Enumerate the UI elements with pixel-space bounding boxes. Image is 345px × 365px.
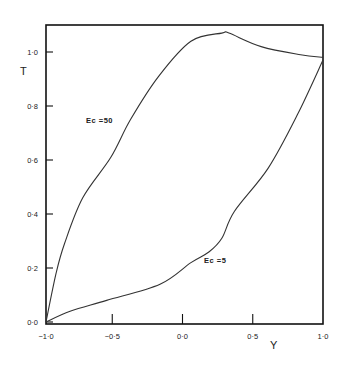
curve-label-ec50: Ec =50 xyxy=(86,116,113,125)
y-tick-label: 0·8 xyxy=(27,102,38,111)
x-tick-label: −1·0 xyxy=(38,332,53,341)
x-axis-ticks: −1·0−0·50·00·51·0 xyxy=(38,314,328,341)
x-tick-label: 0·0 xyxy=(177,332,188,341)
curves xyxy=(46,32,323,322)
y-axis-title: T xyxy=(20,65,27,77)
y-axis-ticks: 0·00·20·40·60·81·0 xyxy=(27,48,53,327)
y-tick-label: 0·6 xyxy=(27,156,38,165)
x-axis-title: Y xyxy=(270,339,278,351)
curve-ec50 xyxy=(46,32,323,322)
x-tick-label: −0·5 xyxy=(105,332,120,341)
y-tick-label: 0·4 xyxy=(27,210,38,219)
y-tick-label: 0·0 xyxy=(27,318,38,327)
y-tick-label: 1·0 xyxy=(27,48,38,57)
curve-label-ec5: Ec =5 xyxy=(204,256,226,265)
x-tick-label: 1·0 xyxy=(318,332,329,341)
chart-canvas: 0·00·20·40·60·81·0 −1·0−0·50·00·51·0 T Y… xyxy=(0,0,345,365)
y-tick-label: 0·2 xyxy=(27,264,38,273)
plot-frame xyxy=(46,25,323,324)
curve-ec5 xyxy=(46,60,323,322)
x-tick-label: 0·5 xyxy=(247,332,258,341)
